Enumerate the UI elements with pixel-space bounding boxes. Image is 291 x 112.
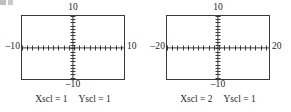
calculator-window-left: [21, 15, 125, 80]
y-min-label-right: –10: [166, 79, 270, 90]
y-max-label-right: 10: [166, 2, 270, 13]
x-min-label-right: –20: [145, 41, 165, 52]
x-max-label-right: 20: [272, 41, 282, 52]
y-axis-ticks-right: [216, 16, 221, 79]
calculator-window-right: [166, 15, 270, 80]
y-axis-ticks-left: [71, 16, 76, 79]
y-min-label-left: –10: [21, 79, 125, 90]
y-max-label-left: 10: [21, 2, 125, 13]
x-max-label-left: 10: [127, 41, 137, 52]
scale-caption-left: Xscl = 1Yscl = 1: [0, 93, 146, 105]
xscl-label-left: Xscl = 1: [35, 94, 67, 104]
yscl-label-right: Yscl = 1: [224, 94, 256, 104]
yscl-label-left: Yscl = 1: [79, 94, 111, 104]
xscl-label-right: Xscl = 2: [180, 94, 212, 104]
viewing-window-figure-right: 10 –20 20 –10 Xscl = 2Yscl = 1: [145, 0, 291, 112]
scale-caption-right: Xscl = 2Yscl = 1: [145, 93, 291, 105]
x-min-label-left: –10: [0, 41, 20, 52]
viewing-window-figure-left: 10 –10 10 –10 Xscl = 1Yscl = 1: [0, 0, 146, 112]
